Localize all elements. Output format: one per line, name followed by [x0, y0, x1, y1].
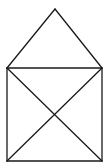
house-diagram	[0, 0, 108, 168]
roof-left-line	[7, 9, 55, 68]
diagram-lines	[7, 9, 102, 161]
roof-right-line	[55, 9, 102, 68]
